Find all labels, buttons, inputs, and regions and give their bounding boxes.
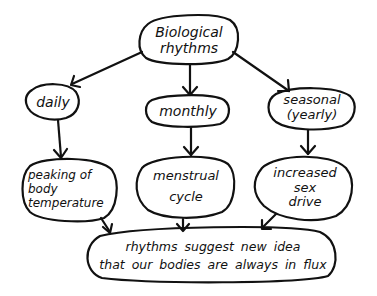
node-sexdrive-label: increased sex drive	[254, 156, 356, 220]
node-root-label: Biological rhythms	[140, 18, 238, 62]
edge-seasonal-sexdrive	[301, 130, 315, 154]
node-monthly-label: monthly	[146, 96, 230, 126]
node-menstrual-label: menstrual cycle	[136, 158, 236, 216]
edge-daily-peaking	[54, 120, 67, 158]
node-conclusion-label: rhythms suggest new idea that our bodies…	[88, 230, 338, 282]
node-peaking-label: peaking of body temperature	[22, 160, 118, 220]
node-daily-label: daily	[26, 85, 80, 119]
edge-root-monthly	[183, 64, 197, 95]
edge-monthly-menstrual	[184, 127, 198, 155]
node-seasonal-label: seasonal (yearly)	[268, 88, 356, 128]
edge-root-daily	[71, 52, 142, 87]
edge-root-seasonal	[233, 52, 289, 91]
